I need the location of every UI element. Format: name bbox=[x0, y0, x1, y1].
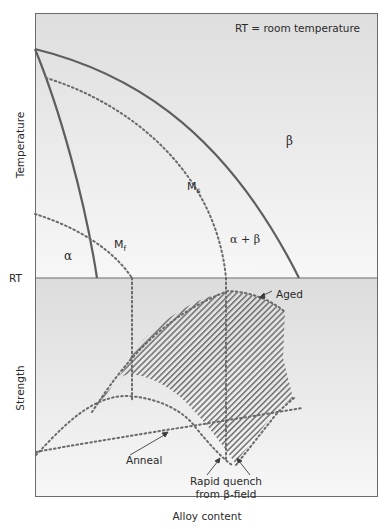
temperature-axis-label: Temperature bbox=[14, 112, 26, 180]
aged-label: Aged bbox=[276, 288, 303, 300]
quench-label-line2: from β-field bbox=[196, 488, 257, 500]
alpha-beta-region-label: α + β bbox=[230, 233, 260, 246]
quench-label-line1: Rapid quench bbox=[190, 475, 262, 487]
rt-legend-note: RT = room temperature bbox=[235, 22, 360, 34]
alloy-content-axis-label: Alloy content bbox=[172, 510, 241, 522]
phase-diagram: RT = room temperature Temperature Streng… bbox=[0, 0, 387, 529]
rt-tick-label: RT bbox=[9, 272, 23, 284]
strength-axis-label: Strength bbox=[14, 365, 26, 410]
anneal-label: Anneal bbox=[126, 454, 162, 466]
beta-region-label: β bbox=[286, 134, 293, 148]
alpha-region-label: α bbox=[64, 249, 72, 263]
